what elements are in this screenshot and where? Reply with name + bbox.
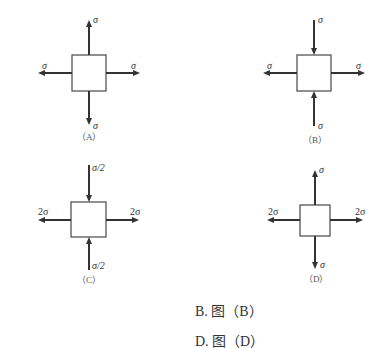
label-bottom: σ bbox=[318, 121, 323, 131]
label-top: σ bbox=[319, 165, 324, 175]
label-top: σ bbox=[93, 15, 98, 25]
figure-c: σ/2 σ/2 2σ 2σ （C） bbox=[0, 150, 180, 290]
label-top: σ/2 bbox=[92, 163, 105, 173]
stress-element-d-diagram bbox=[230, 150, 378, 290]
figure-caption: （D） bbox=[304, 275, 329, 284]
label-bottom: σ bbox=[320, 260, 325, 270]
option-b[interactable]: B. 图（B） bbox=[195, 305, 263, 319]
option-d[interactable]: D. 图（D） bbox=[195, 335, 264, 348]
figure-d: σ σ 2σ 2σ （D） bbox=[230, 150, 378, 290]
figure-caption: （C） bbox=[77, 276, 101, 285]
stress-element-a-diagram bbox=[0, 0, 180, 145]
label-left: σ bbox=[42, 61, 47, 71]
stress-element-b-diagram bbox=[230, 0, 378, 145]
figure-caption: （A） bbox=[77, 133, 102, 142]
figure-caption: （B） bbox=[303, 136, 327, 145]
label-left: 2σ bbox=[268, 207, 278, 217]
label-right: 2σ bbox=[130, 207, 140, 217]
label-bottom: σ/2 bbox=[92, 261, 105, 271]
label-right: σ bbox=[131, 61, 136, 71]
figure-a: σ σ σ σ （A） bbox=[0, 0, 180, 145]
label-right: σ bbox=[356, 61, 361, 71]
label-top: σ bbox=[318, 15, 323, 25]
figure-b: σ σ σ σ （B） bbox=[230, 0, 378, 145]
label-right: 2σ bbox=[355, 207, 365, 217]
label-left: σ bbox=[267, 61, 272, 71]
label-bottom: σ bbox=[93, 121, 98, 131]
label-left: 2σ bbox=[38, 207, 48, 217]
stress-element-c-diagram bbox=[0, 150, 180, 290]
